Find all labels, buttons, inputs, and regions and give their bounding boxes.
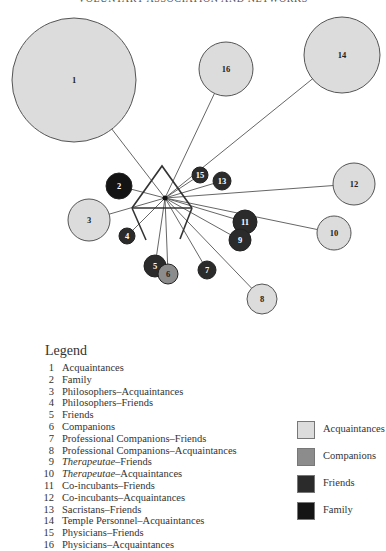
key-label: Family bbox=[323, 504, 353, 515]
key-swatch-companions bbox=[297, 448, 315, 466]
legend-item-number: 2 bbox=[40, 374, 54, 386]
legend-item: 1Acquaintances bbox=[40, 362, 237, 374]
legend-item: 4Philosophers–Friends bbox=[40, 397, 237, 409]
legend-item-number: 14 bbox=[40, 515, 54, 527]
node-13: 13 bbox=[213, 172, 231, 190]
hub-point bbox=[163, 196, 168, 201]
legend-item: 12Co-incubants–Acquaintances bbox=[40, 492, 237, 504]
node-label: 9 bbox=[238, 235, 242, 245]
legend-item: 10Therapeutae–Acquaintances bbox=[40, 468, 237, 480]
node-10: 10 bbox=[317, 216, 351, 250]
node-label: 6 bbox=[166, 269, 170, 279]
node-label: 13 bbox=[218, 176, 227, 186]
legend-item-number: 12 bbox=[40, 492, 54, 504]
legend-item-number: 1 bbox=[40, 362, 54, 374]
legend-item-label: –Acquaintances bbox=[115, 468, 182, 479]
legend-item-italic-term: Therapeutae bbox=[62, 468, 115, 479]
legend-item: 8Professional Companions–Acquaintances bbox=[40, 445, 237, 457]
legend-item-number: 10 bbox=[40, 468, 54, 480]
key-swatch-acquaintances bbox=[297, 421, 315, 439]
legend-item-number: 4 bbox=[40, 397, 54, 409]
node-label: 2 bbox=[117, 181, 121, 191]
node-15: 15 bbox=[192, 167, 208, 183]
legend-item-number: 6 bbox=[40, 421, 54, 433]
legend-title: Legend bbox=[45, 343, 87, 359]
legend-item-label: Philosophers–Acquaintances bbox=[62, 386, 183, 397]
legend-item-label: Sacristans–Friends bbox=[62, 504, 141, 515]
legend-item-label: Temple Personnel–Acquaintances bbox=[62, 515, 204, 526]
legend-item-italic-term: Therapeutae bbox=[62, 456, 115, 467]
node-3: 3 bbox=[68, 199, 110, 241]
legend-item-label: –Friends bbox=[115, 456, 152, 467]
edge-9 bbox=[165, 198, 240, 240]
legend-item-label: Physicians–Acquaintances bbox=[62, 539, 174, 550]
legend-item: 14Temple Personnel–Acquaintances bbox=[40, 515, 237, 527]
node-label: 15 bbox=[196, 170, 205, 180]
node-1: 1 bbox=[12, 18, 136, 142]
node-label: 14 bbox=[338, 50, 347, 60]
legend-item-label: Physicians–Friends bbox=[62, 527, 144, 538]
legend-item-label: Acquaintances bbox=[62, 362, 124, 373]
legend-item-label: Co-incubants–Acquaintances bbox=[62, 492, 185, 503]
legend-item: 3Philosophers–Acquaintances bbox=[40, 386, 237, 398]
node-4: 4 bbox=[119, 228, 135, 244]
legend-item-number: 8 bbox=[40, 445, 54, 457]
legend-item-label: Companions bbox=[62, 421, 115, 432]
key-label: Acquaintances bbox=[323, 423, 385, 434]
legend-item-label: Friends bbox=[62, 409, 94, 420]
legend-item-label: Co-incubants–Friends bbox=[62, 480, 155, 491]
legend-item-number: 7 bbox=[40, 433, 54, 445]
legend-item-label: Philosophers–Friends bbox=[62, 397, 153, 408]
legend-item: 16Physicians–Acquaintances bbox=[40, 539, 237, 551]
node-label: 1 bbox=[72, 75, 76, 85]
legend-item-number: 16 bbox=[40, 539, 54, 551]
legend-list: 1Acquaintances2Family3Philosophers–Acqua… bbox=[40, 362, 237, 551]
key-label: Companions bbox=[323, 450, 376, 461]
network-diagram: 11614234151312119107568 bbox=[0, 0, 386, 340]
legend-item: 5Friends bbox=[40, 409, 237, 421]
legend-item: 7Professional Companions–Friends bbox=[40, 433, 237, 445]
node-6: 6 bbox=[158, 264, 178, 284]
node-14: 14 bbox=[304, 17, 380, 93]
legend-item-label: Professional Companions–Acquaintances bbox=[62, 445, 237, 456]
node-label: 3 bbox=[87, 215, 91, 225]
key-label: Friends bbox=[323, 477, 355, 488]
legend-item-number: 3 bbox=[40, 386, 54, 398]
node-label: 11 bbox=[241, 217, 249, 227]
legend-item-number: 9 bbox=[40, 456, 54, 468]
legend-item-label: Family bbox=[62, 374, 92, 385]
legend-item: 2Family bbox=[40, 374, 237, 386]
legend-item-number: 13 bbox=[40, 504, 54, 516]
legend-item: 9Therapeutae–Friends bbox=[40, 456, 237, 468]
node-12: 12 bbox=[333, 163, 375, 205]
legend-item: 13Sacristans–Friends bbox=[40, 504, 237, 516]
node-label: 12 bbox=[350, 179, 359, 189]
nodes: 11614234151312119107568 bbox=[12, 17, 380, 314]
node-label: 5 bbox=[153, 261, 157, 271]
node-7: 7 bbox=[198, 261, 216, 279]
legend-item-number: 5 bbox=[40, 409, 54, 421]
node-2: 2 bbox=[106, 173, 132, 199]
node-label: 16 bbox=[222, 64, 231, 74]
node-label: 8 bbox=[260, 294, 264, 304]
node-9: 9 bbox=[229, 229, 251, 251]
legend-item-number: 11 bbox=[40, 480, 54, 492]
node-label: 10 bbox=[330, 228, 339, 238]
node-16: 16 bbox=[199, 42, 253, 96]
edge-12 bbox=[165, 184, 354, 198]
key-swatch-friends bbox=[297, 475, 315, 493]
legend-item: 15Physicians–Friends bbox=[40, 527, 237, 539]
key-swatch-family bbox=[297, 502, 315, 520]
legend-item: 6Companions bbox=[40, 421, 237, 433]
legend-item-number: 15 bbox=[40, 527, 54, 539]
legend-item-label: Professional Companions–Friends bbox=[62, 433, 206, 444]
legend-item: 11Co-incubants–Friends bbox=[40, 480, 237, 492]
node-8: 8 bbox=[247, 284, 277, 314]
